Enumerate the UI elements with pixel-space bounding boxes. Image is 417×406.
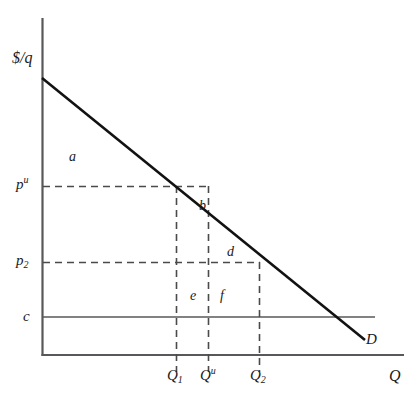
x-tick-label-Q-2: Q2	[250, 368, 266, 383]
demand-curve-label: D	[366, 332, 377, 347]
x-tick-label-Q-1: Q1	[167, 368, 183, 383]
y-tick-base-c: c	[23, 308, 30, 324]
y-tick-base-p-u: p	[16, 176, 24, 192]
diagram-canvas	[0, 0, 417, 406]
y-tick-sup-p-u: u	[24, 174, 29, 185]
y-tick-base-p-2: p	[16, 252, 24, 268]
region-label-f: f	[220, 289, 224, 303]
x-tick-sub-Q-1: 1	[178, 374, 183, 385]
y-tick-sub-p-2: 2	[24, 259, 29, 270]
region-label-e: e	[190, 289, 196, 303]
region-label-b: b	[199, 199, 206, 213]
x-tick-base-Q-2: Q	[250, 367, 261, 383]
x-axis-title: Q	[389, 368, 401, 384]
economics-diagram: $/q Q pu p2 c Q1 Qu Q2 a b d e f D	[0, 0, 417, 406]
x-tick-label-Q-u: Qu	[200, 368, 216, 383]
x-tick-sub-Q-2: 2	[261, 374, 266, 385]
x-tick-sup-Q-u: u	[211, 365, 216, 376]
x-tick-base-Q-u: Q	[200, 367, 211, 383]
y-tick-label-p-u: pu	[16, 177, 29, 192]
region-label-d: d	[227, 245, 234, 259]
region-label-a: a	[69, 150, 76, 164]
x-tick-base-Q-1: Q	[167, 367, 178, 383]
quantity-guide-lines	[177, 186, 260, 372]
y-tick-label-p-2: p2	[16, 253, 29, 268]
y-axis-title: $/q	[12, 50, 32, 66]
y-tick-label-c: c	[23, 309, 30, 324]
